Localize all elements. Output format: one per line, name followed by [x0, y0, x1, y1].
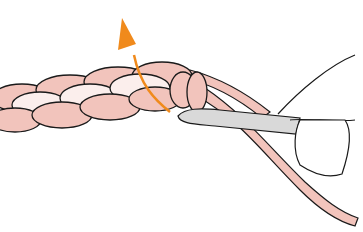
hand-thumb	[278, 55, 355, 176]
illustration-canvas: Crochet hook pulling yarn through a loop…	[0, 0, 363, 232]
crochet-hook	[178, 109, 300, 134]
yarn-chain	[0, 62, 207, 132]
crochet-illustration	[0, 0, 363, 232]
